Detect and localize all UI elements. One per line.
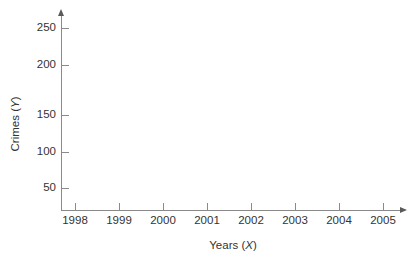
y-axis-tick-label: 50 <box>16 182 56 194</box>
y-axis-tick <box>62 65 69 66</box>
y-axis-tick <box>62 188 69 189</box>
x-axis-variable: X <box>245 239 253 251</box>
y-axis-arrow-icon <box>58 9 64 16</box>
x-axis-tick-label: 1999 <box>94 214 144 226</box>
x-axis-tick <box>207 203 208 210</box>
x-axis-tick <box>251 203 252 210</box>
chart-figure: 25020015010050 1998199920002001200220032… <box>0 0 413 267</box>
x-axis-tick-label: 2002 <box>226 214 276 226</box>
x-axis-tick <box>295 203 296 210</box>
x-axis-tick-label: 2000 <box>138 214 188 226</box>
y-axis-tick <box>62 28 69 29</box>
x-axis-title-text: Years <box>209 239 238 251</box>
x-axis-tick-label: 2003 <box>270 214 320 226</box>
y-axis-tick-label: 200 <box>16 59 56 71</box>
plot-area <box>62 14 403 210</box>
y-axis-tick-label: 250 <box>16 22 56 34</box>
y-axis-title: Crimes (Y) <box>9 69 21 179</box>
y-axis-tick-label: 150 <box>16 109 56 121</box>
y-axis-line <box>61 14 62 211</box>
x-axis-tick <box>339 203 340 210</box>
x-axis-line <box>61 210 403 211</box>
x-axis-tick <box>163 203 164 210</box>
x-axis-title: Years (X) <box>62 239 404 251</box>
x-axis-tick-label: 2004 <box>314 214 364 226</box>
x-axis-tick <box>383 203 384 210</box>
y-axis-title-text: Crimes <box>9 115 21 151</box>
x-axis-tick-label: 2005 <box>358 214 408 226</box>
y-axis-tick-label: 100 <box>16 146 56 158</box>
y-axis-variable: Y <box>9 100 21 108</box>
x-axis-tick-label: 2001 <box>182 214 232 226</box>
x-axis-tick <box>119 203 120 210</box>
y-axis-tick <box>62 152 69 153</box>
x-axis-tick-label: 1998 <box>50 214 100 226</box>
y-axis-tick <box>62 115 69 116</box>
x-axis-arrow-icon <box>400 207 407 213</box>
x-axis-tick <box>75 203 76 210</box>
